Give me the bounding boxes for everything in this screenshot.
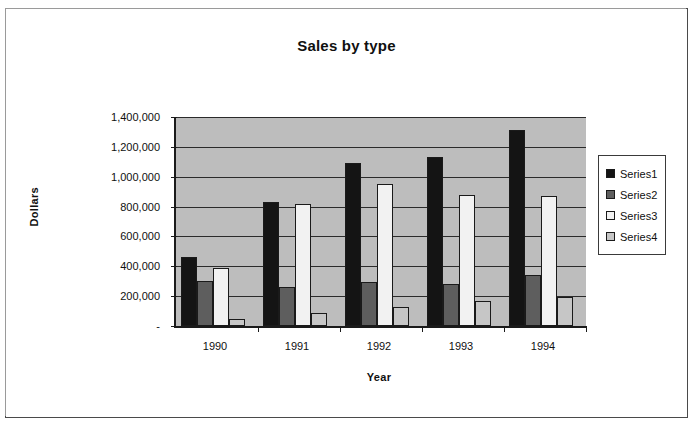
y-axis-tick-mark [171, 117, 177, 118]
bar-series3-1993[interactable] [459, 195, 475, 326]
legend-swatch-icon [606, 232, 615, 241]
x-axis-tick-label: 1994 [531, 340, 555, 352]
chart-legend: Series1Series2Series3Series4 [598, 155, 666, 255]
bar-series1-1994[interactable] [509, 130, 525, 326]
y-axis-tick-label: 200,000 [62, 290, 160, 302]
bar-series1-1993[interactable] [427, 157, 443, 326]
bar-series4-1993[interactable] [475, 301, 491, 326]
bar-group [427, 117, 491, 326]
chart-title: Sales by type [6, 37, 687, 54]
bar-group [345, 117, 409, 326]
y-axis-tick-label: 1,000,000 [62, 171, 160, 183]
legend-item-series1[interactable]: Series1 [606, 163, 657, 184]
legend-item-series2[interactable]: Series2 [606, 184, 657, 205]
bar-series4-1994[interactable] [557, 297, 573, 326]
y-axis-tick-labels: -200,000400,000600,000800,0001,000,0001,… [62, 109, 160, 327]
y-axis-tick-mark [171, 326, 177, 327]
x-axis-tick-mark [422, 326, 423, 332]
x-axis-tick-label: 1993 [449, 340, 473, 352]
legend-label: Series4 [620, 231, 657, 243]
plot-area [174, 117, 586, 328]
x-axis-title: Year [174, 371, 584, 383]
x-axis-tick-label: 1991 [285, 340, 309, 352]
x-axis-tick-label: 1992 [367, 340, 391, 352]
bar-group [263, 117, 327, 326]
y-axis-tick-label: 1,400,000 [62, 111, 160, 123]
legend-label: Series1 [620, 168, 657, 180]
x-axis-tick-mark [504, 326, 505, 332]
y-axis-tick-mark [171, 147, 177, 148]
bar-series3-1990[interactable] [213, 268, 229, 326]
y-axis-tick-mark [171, 236, 177, 237]
y-axis-tick-mark [171, 207, 177, 208]
legend-item-series3[interactable]: Series3 [606, 205, 657, 226]
y-axis-tick-mark [171, 296, 177, 297]
bar-series1-1990[interactable] [181, 257, 197, 326]
x-axis-tick-labels: 19901991199219931994 [174, 340, 584, 358]
bar-series4-1992[interactable] [393, 307, 409, 326]
y-axis-tick-label: 800,000 [62, 201, 160, 213]
legend-swatch-icon [606, 169, 615, 178]
y-axis-title: Dollars [28, 187, 48, 226]
y-axis-tick-mark [171, 266, 177, 267]
legend-item-series4[interactable]: Series4 [606, 226, 657, 247]
x-axis-tick-mark [340, 326, 341, 332]
bar-group [509, 117, 573, 326]
bar-series2-1992[interactable] [361, 282, 377, 326]
bar-series4-1990[interactable] [229, 319, 245, 326]
chart-frame: Sales by type Dollars -200,000400,000600… [5, 8, 688, 418]
y-axis-tick-label: 600,000 [62, 230, 160, 242]
bar-series2-1990[interactable] [197, 281, 213, 326]
y-axis-tick-label: 400,000 [62, 260, 160, 272]
bar-series2-1993[interactable] [443, 284, 459, 326]
x-axis-tick-mark [258, 326, 259, 332]
legend-label: Series2 [620, 189, 657, 201]
bar-series2-1991[interactable] [279, 287, 295, 326]
y-axis-tick-label: 1,200,000 [62, 141, 160, 153]
legend-label: Series3 [620, 210, 657, 222]
y-axis-tick-label: - [62, 320, 160, 332]
bar-series3-1994[interactable] [541, 196, 557, 326]
bar-group [181, 117, 245, 326]
bar-series4-1991[interactable] [311, 313, 327, 326]
bar-series1-1991[interactable] [263, 202, 279, 326]
bar-series3-1992[interactable] [377, 184, 393, 326]
bar-series3-1991[interactable] [295, 204, 311, 326]
x-axis-tick-label: 1990 [203, 340, 227, 352]
x-axis-tick-mark [586, 326, 587, 332]
legend-swatch-icon [606, 211, 615, 220]
legend-swatch-icon [606, 190, 615, 199]
bar-series1-1992[interactable] [345, 163, 361, 326]
bar-series2-1994[interactable] [525, 275, 541, 327]
y-axis-tick-mark [171, 177, 177, 178]
